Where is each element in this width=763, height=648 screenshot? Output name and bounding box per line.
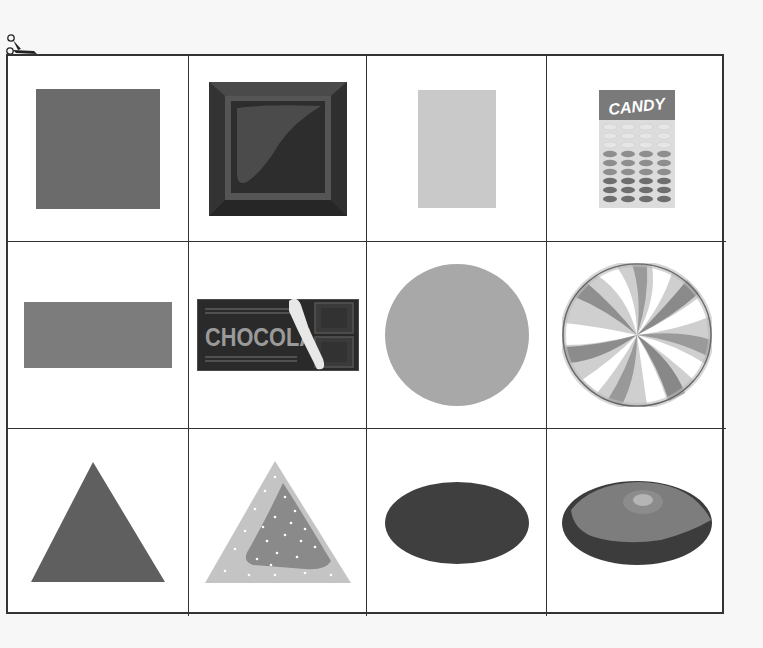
vertical-rectangle-shape xyxy=(418,90,496,208)
cut-and-match-worksheet: CANDY xyxy=(0,0,763,648)
peppermint-swirl-candy-image xyxy=(562,263,712,407)
horizontal-rectangle-shape xyxy=(24,302,172,368)
circle-shape xyxy=(384,264,530,406)
cell-triangle-cookie[interactable] xyxy=(189,429,367,616)
cell-candy-box[interactable]: CANDY xyxy=(547,56,726,242)
cell-chocolate-bar[interactable]: CHOCOLA xyxy=(189,242,367,429)
candy-box-image: CANDY xyxy=(599,90,675,208)
triangle-sprinkle-cookie-image xyxy=(205,461,351,585)
cell-oval-shape[interactable] xyxy=(367,429,547,616)
shape-match-grid: CANDY xyxy=(6,54,724,614)
cell-triangle-shape[interactable] xyxy=(8,429,189,616)
oval-shape xyxy=(384,481,530,565)
cell-square-shape[interactable] xyxy=(8,56,189,242)
cell-vertical-rectangle-shape[interactable] xyxy=(367,56,547,242)
cell-jelly-bean[interactable] xyxy=(547,429,726,616)
oval-jelly-bean-image xyxy=(561,480,713,566)
chocolate-bar-image: CHOCOLA xyxy=(197,299,359,371)
cell-peppermint-candy[interactable] xyxy=(547,242,726,429)
triangle-shape xyxy=(31,462,165,584)
cell-circle-shape[interactable] xyxy=(367,242,547,429)
chocolate-square-image xyxy=(209,82,347,216)
cell-horizontal-rectangle-shape[interactable] xyxy=(8,242,189,429)
cell-chocolate-square[interactable] xyxy=(189,56,367,242)
square-shape xyxy=(36,89,160,209)
